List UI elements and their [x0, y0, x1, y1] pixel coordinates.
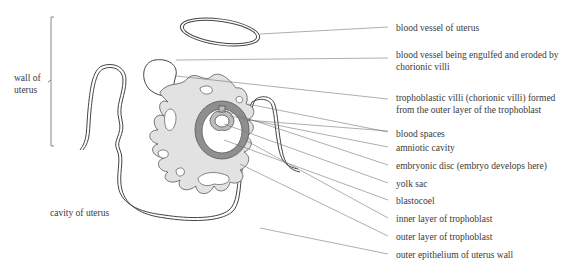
- label-outer-epithelium: outer epithelium of uterus wall: [396, 249, 513, 261]
- label-blood-vessel-uterus: blood vessel of uterus: [396, 22, 479, 34]
- wall-of-uterus-text: wall of uterus: [14, 72, 52, 96]
- blastocyst-implantation-diagram: [0, 0, 580, 270]
- label-cavity-of-uterus: cavity of uterus: [50, 207, 109, 219]
- label-amniotic-cavity: amniotic cavity: [396, 142, 455, 154]
- label-blood-spaces: blood spaces: [396, 128, 445, 140]
- label-engulfed-vessel: blood vessel being engulfed and eroded b…: [396, 49, 576, 73]
- label-embryonic-disc: embryonic disc (embryo develops here): [396, 160, 547, 172]
- label-yolk-sac: yolk sac: [396, 178, 427, 190]
- label-trophoblastic-villi: trophoblastic villi (chorionic villi) fo…: [396, 92, 556, 116]
- label-inner-trophoblast: inner layer of trophoblast: [396, 213, 492, 225]
- label-outer-trophoblast: outer layer of trophoblast: [396, 231, 492, 243]
- label-blastocoel: blastocoel: [396, 195, 435, 207]
- label-wall-of-uterus: wall of uterus: [14, 72, 54, 96]
- blood-vessel-uterus: [179, 14, 262, 51]
